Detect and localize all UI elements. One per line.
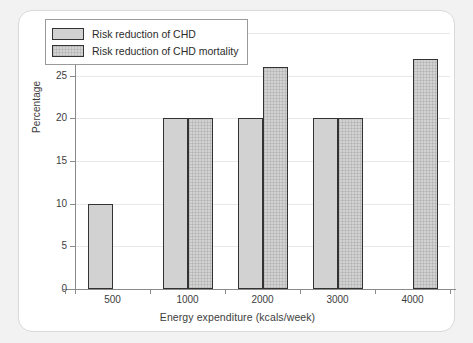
x-axis-line — [63, 289, 456, 290]
x-axis-tick — [65, 289, 66, 294]
y-axis-tick-label: 15 — [56, 154, 67, 167]
bar — [88, 204, 113, 289]
legend-item: Risk reduction of CHD mortality — [52, 42, 238, 59]
y-axis-line — [75, 33, 76, 290]
bar — [163, 118, 188, 289]
legend-swatch-icon — [52, 28, 84, 40]
x-axis-tick-label: 4000 — [401, 294, 423, 305]
x-axis-tick-label: 3000 — [326, 294, 348, 305]
x-axis-tick-label: 500 — [104, 294, 121, 305]
bar — [413, 59, 438, 289]
y-axis-title: Percentage — [31, 81, 42, 133]
x-axis-tick — [150, 289, 151, 294]
y-axis-tick: 20 — [70, 118, 75, 119]
bar-chart: 051015202530 5001000200030004000 Percent… — [19, 11, 456, 333]
bar — [338, 118, 363, 289]
x-axis-title: Energy expenditure (kcals/week) — [19, 311, 456, 323]
x-axis-tick — [450, 289, 451, 294]
legend-item: Risk reduction of CHD — [52, 25, 238, 42]
legend-label: Risk reduction of CHD mortality — [92, 45, 238, 57]
bar — [263, 67, 288, 289]
x-axis-tick-label: 1000 — [176, 294, 198, 305]
y-axis-tick: 10 — [70, 204, 75, 205]
y-axis-tick-label: 20 — [56, 111, 67, 124]
legend-label: Risk reduction of CHD — [92, 28, 196, 40]
y-axis-tick-label: 5 — [61, 239, 67, 252]
y-axis-tick-label: 25 — [56, 69, 67, 82]
legend-swatch-icon — [52, 45, 84, 57]
chart-legend: Risk reduction of CHDRisk reduction of C… — [45, 19, 248, 65]
x-axis-tick — [375, 289, 376, 294]
bar — [188, 118, 213, 289]
plot-area — [75, 33, 450, 289]
bar — [313, 118, 338, 289]
x-axis-tick-label: 2000 — [251, 294, 273, 305]
y-axis-tick: 5 — [70, 246, 75, 247]
page-background: 051015202530 5001000200030004000 Percent… — [0, 0, 473, 343]
y-axis-tick: 25 — [70, 76, 75, 77]
x-axis-tick — [300, 289, 301, 294]
y-axis-tick: 15 — [70, 161, 75, 162]
x-axis-tick — [225, 289, 226, 294]
chart-card: 051015202530 5001000200030004000 Percent… — [18, 10, 455, 332]
bar — [238, 118, 263, 289]
x-axis-tick — [75, 289, 76, 294]
y-axis-tick-label: 10 — [56, 197, 67, 210]
